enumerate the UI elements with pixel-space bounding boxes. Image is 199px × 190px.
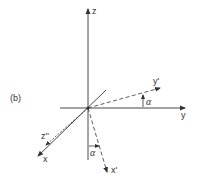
origin-point — [87, 107, 90, 110]
angle-alpha-x-label: α — [90, 147, 96, 158]
x-prime-axis — [88, 108, 107, 172]
z-axis-label: z — [92, 6, 97, 16]
y-prime-label: y' — [153, 76, 160, 86]
y-axis-label: y — [181, 110, 186, 120]
coordinate-diagram: z y x z'' y' x' α α (b) — [0, 0, 199, 190]
z-double-prime-label: z'' — [41, 131, 49, 141]
panel-label: (b) — [10, 93, 21, 103]
z-double-prime-axis — [46, 108, 88, 145]
angle-alpha-y-label: α — [146, 96, 152, 107]
x-prime-label: x' — [111, 165, 118, 175]
x-axis-label: x — [43, 154, 48, 164]
